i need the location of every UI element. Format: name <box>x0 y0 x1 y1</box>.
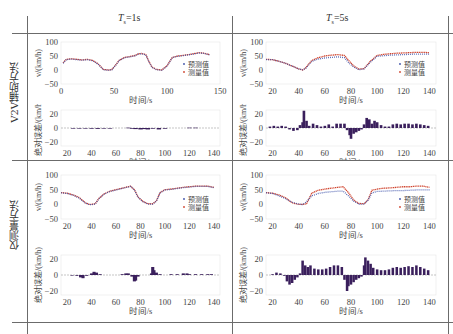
svg-text:60: 60 <box>321 221 330 231</box>
svg-text:40: 40 <box>294 148 303 158</box>
error-chart-measurement-ts5: −2002020406080100120140时间/s绝对误差/(km/h) <box>233 239 448 322</box>
svg-text:−20: −20 <box>250 286 263 296</box>
svg-text:100: 100 <box>45 170 58 180</box>
svg-text:50: 50 <box>255 51 264 61</box>
svg-text:20: 20 <box>63 297 72 307</box>
error-chart-v2v-ts1: −2002020406080100120140时间/s绝对误差/(km/h) <box>28 104 232 160</box>
svg-text:时间/s: 时间/s <box>129 306 153 316</box>
svg-text:测量值: 测量值 <box>188 203 209 212</box>
svg-text:140: 140 <box>423 297 436 307</box>
error-chart-v2v-ts5: −2002020406080100120140时间/s绝对误差/(km/h) <box>233 104 448 160</box>
svg-text:预测值: 预测值 <box>188 60 209 69</box>
velocity-chart-measurement-ts5: −5005010020406080100120140时间/sv/(km/h)预测… <box>233 161 448 239</box>
svg-text:绝对误差/(km/h): 绝对误差/(km/h) <box>238 104 248 156</box>
svg-text:20: 20 <box>63 221 72 231</box>
svg-text:120: 120 <box>397 148 410 158</box>
svg-text:60: 60 <box>321 148 330 158</box>
svg-text:测量值: 测量值 <box>404 203 425 212</box>
svg-text:绝对误差/(km/h): 绝对误差/(km/h) <box>33 247 43 303</box>
svg-text:150: 150 <box>214 86 227 96</box>
svg-text:50: 50 <box>110 86 119 96</box>
svg-text:时间/s: 时间/s <box>129 230 153 239</box>
svg-text:0: 0 <box>259 270 263 280</box>
svg-text:0: 0 <box>54 270 58 280</box>
svg-text:预测值: 预测值 <box>188 195 209 204</box>
svg-text:0: 0 <box>259 199 263 209</box>
svg-text:140: 140 <box>423 148 436 158</box>
svg-text:20: 20 <box>268 148 277 158</box>
svg-text:40: 40 <box>294 86 303 96</box>
svg-text:−50: −50 <box>45 214 58 224</box>
svg-text:20: 20 <box>268 297 277 307</box>
svg-text:140: 140 <box>208 297 221 307</box>
cell-measurement-ts5: −5005010020406080100120140时间/sv/(km/h)预测… <box>233 161 448 322</box>
svg-text:100: 100 <box>371 297 384 307</box>
frame-line-right <box>448 16 449 334</box>
svg-text:60: 60 <box>112 148 121 158</box>
svg-text:120: 120 <box>397 297 410 307</box>
svg-text:100: 100 <box>371 221 384 231</box>
velocity-chart-measurement-ts1: −5005010020406080100120140时间/sv/(km/h)预测… <box>28 161 232 239</box>
header-value: =1s <box>126 12 141 23</box>
svg-text:50: 50 <box>50 185 59 195</box>
svg-text:时间/s: 时间/s <box>129 157 153 160</box>
cell-v2v-ts1: −50050100050100150时间/sv/(km/h)预测值测量值 −20… <box>28 34 232 160</box>
svg-text:120: 120 <box>183 148 196 158</box>
svg-text:20: 20 <box>268 221 277 231</box>
svg-text:100: 100 <box>250 37 263 47</box>
svg-text:100: 100 <box>250 170 263 180</box>
svg-text:0: 0 <box>54 199 58 209</box>
svg-text:0: 0 <box>54 65 58 75</box>
svg-text:140: 140 <box>423 221 436 231</box>
svg-text:100: 100 <box>159 297 172 307</box>
svg-text:120: 120 <box>397 86 410 96</box>
cell-v2v-ts5: −5005010020406080100120140时间/sv/(km/h)预测… <box>233 34 448 160</box>
svg-text:时间/s: 时间/s <box>339 95 363 104</box>
svg-text:20: 20 <box>255 109 264 119</box>
svg-text:−50: −50 <box>45 79 58 89</box>
svg-text:20: 20 <box>50 109 59 119</box>
header-value: =5s <box>334 12 349 23</box>
velocity-chart-v2v-ts1: −50050100050100150时间/sv/(km/h)预测值测量值 <box>28 34 232 104</box>
svg-text:140: 140 <box>208 221 221 231</box>
svg-text:120: 120 <box>397 221 410 231</box>
cell-measurement-ts1: −5005010020406080100120140时间/sv/(km/h)预测… <box>28 161 232 322</box>
svg-text:时间/s: 时间/s <box>339 306 363 316</box>
svg-text:v/(km/h): v/(km/h) <box>34 183 43 211</box>
svg-text:60: 60 <box>112 221 121 231</box>
svg-text:100: 100 <box>159 148 172 158</box>
svg-text:140: 140 <box>208 148 221 158</box>
svg-text:60: 60 <box>321 86 330 96</box>
svg-text:v/(km/h): v/(km/h) <box>34 49 43 77</box>
svg-text:绝对误差/(km/h): 绝对误差/(km/h) <box>238 247 248 303</box>
svg-text:0: 0 <box>259 123 263 133</box>
svg-text:100: 100 <box>159 221 172 231</box>
svg-text:40: 40 <box>294 297 303 307</box>
error-chart-measurement-ts1: −2002020406080100120140时间/s绝对误差/(km/h) <box>28 239 232 322</box>
svg-text:40: 40 <box>87 148 96 158</box>
svg-text:20: 20 <box>63 148 72 158</box>
svg-text:40: 40 <box>87 221 96 231</box>
svg-text:v/(km/h): v/(km/h) <box>239 183 248 211</box>
svg-text:预测值: 预测值 <box>404 195 425 204</box>
row-label-v2v: V2V辅助方法 <box>7 62 22 123</box>
column-header-ts5: Ts=5s <box>326 12 348 25</box>
row-label-measurement-only: 仅测量方法 <box>7 200 22 250</box>
svg-text:50: 50 <box>255 185 264 195</box>
svg-text:20: 20 <box>255 254 264 264</box>
svg-text:0: 0 <box>54 123 58 133</box>
svg-text:100: 100 <box>371 148 384 158</box>
svg-text:测量值: 测量值 <box>404 68 425 77</box>
svg-text:0: 0 <box>259 65 263 75</box>
svg-text:50: 50 <box>50 51 59 61</box>
frame-line-bottom <box>12 322 453 323</box>
svg-text:120: 120 <box>183 297 196 307</box>
column-header-ts1: Ts=1s <box>118 12 140 25</box>
velocity-chart-v2v-ts5: −5005010020406080100120140时间/sv/(km/h)预测… <box>233 34 448 104</box>
svg-text:40: 40 <box>87 297 96 307</box>
svg-text:时间/s: 时间/s <box>129 95 153 104</box>
svg-text:时间/s: 时间/s <box>339 230 363 239</box>
svg-text:时间/s: 时间/s <box>339 157 363 160</box>
svg-text:100: 100 <box>161 86 174 96</box>
svg-text:−50: −50 <box>250 79 263 89</box>
